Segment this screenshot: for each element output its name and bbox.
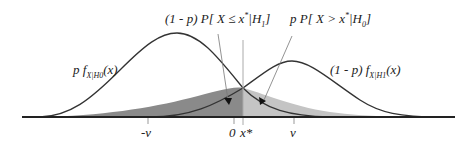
label-left-prob: (1 - p) P[ X ≤ x*|H1]	[165, 12, 270, 29]
tick-label-zero: 0	[229, 126, 236, 139]
pointer-right	[264, 36, 292, 100]
tick-label-threshold: x*	[240, 126, 252, 139]
diagram: (1 - p) P[ X ≤ x*|H1] p P[ X > x*|H0] p …	[0, 0, 476, 147]
label-left-density: p fX|H0(x)	[73, 63, 118, 80]
tick-label-neg-v: -v	[141, 126, 151, 139]
tick-label-v: v	[290, 126, 296, 139]
region-left-prob	[40, 88, 243, 117]
label-right-density: (1 - p) fX|H1(x)	[330, 63, 401, 80]
region-right-prob	[243, 88, 440, 117]
label-right-prob: p P[ X > x*|H0]	[290, 12, 371, 29]
